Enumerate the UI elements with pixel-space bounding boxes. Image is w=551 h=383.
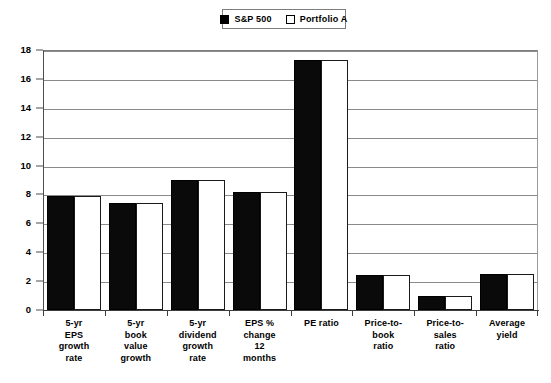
bar [383,275,410,310]
bar [136,203,163,310]
y-axis-tick-label: 6 [26,219,31,229]
x-axis-category-label: 5-yr dividend growth rate [167,318,229,364]
bar [507,274,534,310]
y-axis-tick-label: 4 [26,247,31,257]
y-axis-tick-mark [36,310,43,311]
y-axis-tick-label: 14 [20,103,31,113]
x-axis-category-label: EPS % change 12 months [229,318,291,364]
y-axis-tick-label: 0 [26,305,31,315]
bar [418,296,445,310]
x-axis-tick-mark [229,310,230,316]
bar-group [167,50,229,310]
x-axis-tick-mark [167,310,168,316]
bar [445,296,472,310]
x-axis-category-label: Price-to- sales ratio [414,318,476,353]
x-axis-tick-mark [43,310,44,316]
bar [321,60,348,310]
x-axis-category-label: Average yield [476,318,538,341]
y-axis-tick-label: 18 [20,45,31,55]
x-axis-category-label: PE ratio [291,318,353,330]
y-axis-tick-label: 2 [26,276,31,286]
chart-legend: S&P 500 Portfolio A [222,9,346,29]
x-axis-category-label: Price-to- book ratio [352,318,414,353]
x-axis-tick-mark [352,310,353,316]
bar [480,274,507,310]
y-axis-tick-mark [36,50,43,51]
legend-entry-portfolio-a: Portfolio A [286,15,348,24]
y-axis-tick-mark [36,223,43,224]
bar [171,180,198,310]
x-axis-tick-mark [476,310,477,316]
y-axis-tick-label: 8 [26,190,31,200]
legend-label-sp500: S&P 500 [234,15,271,24]
y-axis: 024681012141618 [0,50,43,310]
y-axis-tick-mark [36,107,43,108]
x-axis-tick-mark [291,310,292,316]
bar-group [352,50,414,310]
y-axis-tick-mark [36,252,43,253]
bar [47,196,74,310]
bar [233,192,260,310]
bar [356,275,383,310]
y-axis-tick-mark [36,194,43,195]
y-axis-tick-mark [36,165,43,166]
x-axis-tick-mark [105,310,106,316]
x-axis-tick-mark [414,310,415,316]
y-axis-tick-label: 12 [20,132,31,142]
legend-swatch-icon-sp500 [220,15,229,24]
bar [74,196,101,310]
bar-group [105,50,167,310]
bar [109,203,136,310]
bar-group [43,50,105,310]
bar [198,180,225,310]
y-axis-tick-label: 10 [20,161,31,171]
bar-group [229,50,291,310]
bars-layer [43,50,538,310]
bar-group [414,50,476,310]
x-axis-ticks [43,310,538,316]
legend-entry-sp500: S&P 500 [220,15,271,24]
legend-label-portfolio-a: Portfolio A [300,15,348,24]
bar-group [291,50,353,310]
bar [294,60,321,310]
bar-group [476,50,538,310]
y-axis-tick-mark [36,281,43,282]
x-axis-category-label: 5-yr book value growth [105,318,167,364]
x-axis-labels: 5-yr EPS growth rate5-yr book value grow… [43,318,538,380]
y-axis-tick-mark [36,78,43,79]
y-axis-tick-mark [36,136,43,137]
x-axis-category-label: 5-yr EPS growth rate [43,318,105,364]
x-axis-tick-mark [537,310,538,316]
y-axis-tick-label: 16 [20,74,31,84]
legend-swatch-icon-portfolio-a [286,15,295,24]
bar [260,192,287,310]
